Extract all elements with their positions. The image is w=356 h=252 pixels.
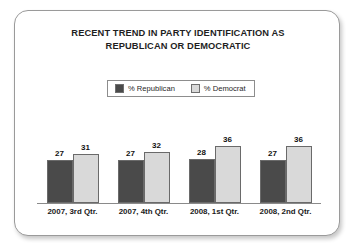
legend-entry-republican: % Republican (115, 84, 175, 93)
plot-area: 27 31 27 32 28 (37, 129, 321, 204)
bar-democrat: 36 (215, 129, 241, 203)
x-axis-label: 2008, 1st Qtr. (179, 207, 250, 216)
bar-value: 28 (197, 148, 206, 157)
bar-rect (144, 152, 170, 203)
bar-democrat: 32 (144, 129, 170, 203)
x-axis-label: 2007, 4th Qtr. (108, 207, 179, 216)
bar-value: 27 (268, 149, 277, 158)
bar-republican: 27 (260, 129, 286, 203)
bar-value: 31 (81, 143, 90, 152)
bar-group: 27 31 (37, 129, 108, 203)
bar-republican: 27 (47, 129, 73, 203)
bar-group: 28 36 (179, 129, 250, 203)
legend-label-republican: % Republican (128, 84, 175, 93)
bar-chart: RECENT TREND IN PARTY IDENTIFICATION AS … (15, 11, 339, 235)
chart-card: RECENT TREND IN PARTY IDENTIFICATION AS … (14, 10, 340, 236)
bar-value: 27 (55, 149, 64, 158)
bar-rect (118, 160, 144, 203)
bar-rect (189, 159, 215, 203)
light-gray-swatch-icon (191, 84, 200, 93)
bar-value: 36 (223, 135, 232, 144)
bar-republican: 27 (118, 129, 144, 203)
chart-legend: % Republican % Democrat (107, 80, 255, 97)
chart-title: RECENT TREND IN PARTY IDENTIFICATION AS … (31, 27, 325, 53)
bar-value: 36 (294, 135, 303, 144)
legend-entry-democrat: % Democrat (191, 84, 246, 93)
chart-title-line-2: REPUBLICAN OR DEMOCRATIC (31, 40, 325, 53)
dark-gray-swatch-icon (115, 84, 124, 93)
x-axis-line (37, 203, 321, 204)
bar-democrat: 31 (73, 129, 99, 203)
legend-label-democrat: % Democrat (204, 84, 246, 93)
x-axis-label: 2008, 2nd Qtr. (250, 207, 321, 216)
x-axis-labels: 2007, 3rd Qtr. 2007, 4th Qtr. 2008, 1st … (37, 207, 327, 216)
bar-rect (215, 146, 241, 203)
bar-group: 27 36 (250, 129, 321, 203)
bar-rect (47, 160, 73, 203)
bar-group: 27 32 (108, 129, 179, 203)
bar-value: 27 (126, 149, 135, 158)
bar-rect (73, 154, 99, 203)
bar-value: 32 (152, 141, 161, 150)
bar-rect (286, 146, 312, 203)
x-axis-label: 2007, 3rd Qtr. (37, 207, 108, 216)
chart-title-line-1: RECENT TREND IN PARTY IDENTIFICATION AS (31, 27, 325, 40)
bar-rect (260, 160, 286, 203)
bar-republican: 28 (189, 129, 215, 203)
bar-democrat: 36 (286, 129, 312, 203)
